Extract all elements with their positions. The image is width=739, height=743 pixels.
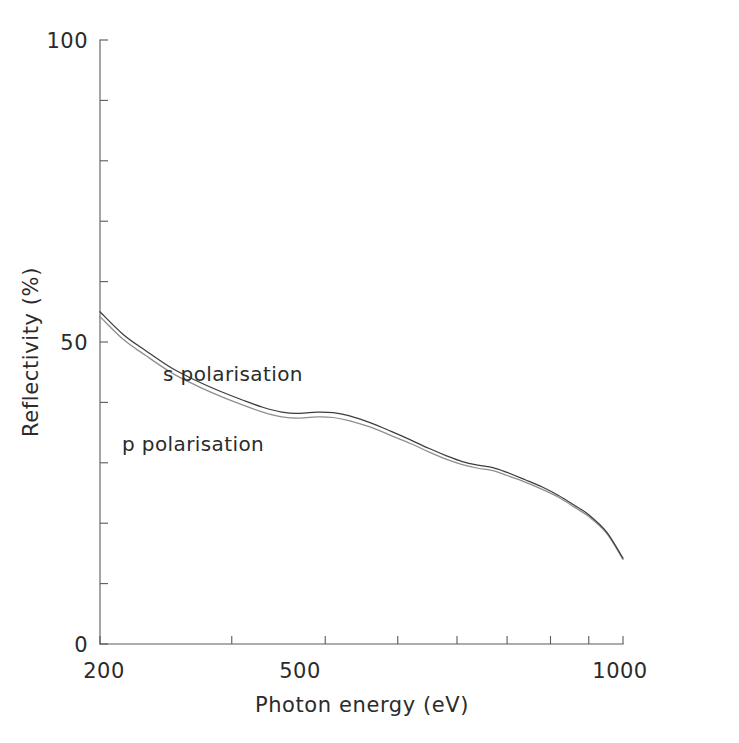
plot-axes (100, 40, 623, 644)
y-tick-label-50: 50 (60, 331, 88, 355)
reflectivity-line-chart: 100 50 0 200 500 1000 Photon energy (eV)… (0, 0, 739, 743)
y-tick-label-0: 0 (74, 633, 88, 657)
x-tick-label-200: 200 (83, 659, 125, 683)
x-tick-label-500: 500 (279, 659, 321, 683)
annotation-s-polarisation: s polarisation (163, 362, 303, 386)
x-axis-ticks (100, 636, 623, 644)
y-axis-title: Reflectivity (%) (19, 267, 43, 437)
x-axis-title: Photon energy (eV) (255, 693, 469, 717)
y-tick-label-100: 100 (46, 29, 88, 53)
annotation-p-polarisation: p polarisation (122, 432, 264, 456)
series-annotations: s polarisationp polarisation (122, 362, 303, 456)
x-tick-label-1000: 1000 (592, 659, 647, 683)
y-axis-tick-labels: 100 50 0 (46, 29, 88, 657)
y-axis-ticks (100, 40, 108, 644)
x-axis-tick-labels: 200 500 1000 (83, 659, 648, 683)
chart-figure: 100 50 0 200 500 1000 Photon energy (eV)… (0, 0, 739, 743)
